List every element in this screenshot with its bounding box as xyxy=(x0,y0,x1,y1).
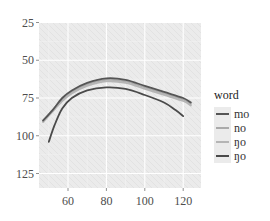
y-tick-label: 125 xyxy=(16,167,34,181)
y-tick-label: 25 xyxy=(22,16,34,30)
x-tick-label: 120 xyxy=(174,194,192,208)
legend-label: no xyxy=(234,121,246,135)
x-tick-label: 100 xyxy=(136,194,154,208)
y-tick-label: 75 xyxy=(22,91,34,105)
y-axis: 255075100125 xyxy=(16,16,39,181)
legend: wordmonoŋoŋo xyxy=(214,88,249,163)
legend-label: mo xyxy=(234,107,249,121)
legend-label: ŋo xyxy=(234,149,246,163)
x-tick-label: 60 xyxy=(62,194,74,208)
legend-title: word xyxy=(214,88,239,102)
line-chart: 255075100125 6080100120 wordmonoŋoŋo xyxy=(0,0,270,221)
legend-label: ŋo xyxy=(234,135,246,149)
x-tick-label: 80 xyxy=(100,194,112,208)
y-tick-label: 100 xyxy=(16,129,34,143)
x-axis: 6080100120 xyxy=(62,188,192,208)
y-tick-label: 50 xyxy=(22,53,34,67)
